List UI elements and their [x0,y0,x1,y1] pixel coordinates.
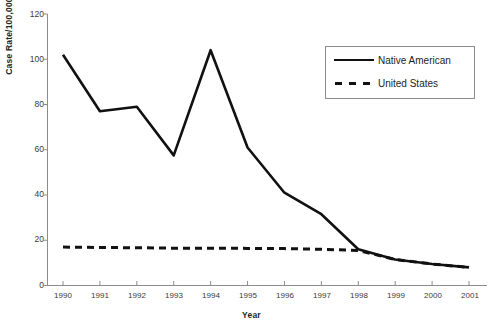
caption-fragment [0,318,503,326]
legend-label-native-american: Native American [378,55,451,66]
line-chart: Case Rate/100,000 120 100 80 60 40 20 0 … [0,0,503,326]
y-tick-marks [43,14,48,286]
legend-entry-native-american: Native American [334,53,451,67]
solid-line-icon [334,55,374,65]
legend-label-united-states: United States [378,78,438,89]
dashed-line-icon [334,78,374,88]
legend: Native American United States [325,46,475,99]
legend-entry-united-states: United States [334,76,438,90]
x-tick-marks [63,281,469,286]
series-line-united-states [63,247,469,267]
